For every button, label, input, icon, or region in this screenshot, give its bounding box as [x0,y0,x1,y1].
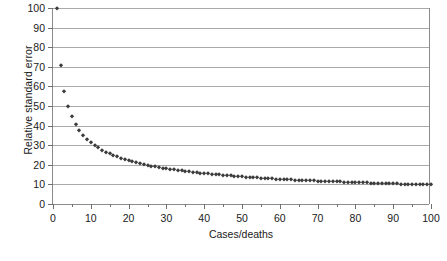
x-tick-label-0: 0 [50,212,56,224]
x-tick-label-20: 20 [123,212,135,224]
x-tick-label-30: 30 [161,212,173,224]
x-minor-tick-85 [374,204,375,207]
y-tick-label-20: 20 [33,159,45,171]
data-point [327,179,331,183]
x-tick-100 [431,204,432,209]
data-point [78,128,82,132]
y-tick-30 [48,145,53,146]
x-tick-70 [318,204,319,209]
x-minor-tick-95 [412,204,413,207]
gridline-y-100 [53,8,429,9]
y-tick-20 [48,165,53,166]
gridline-y-10 [53,184,429,185]
data-point [81,133,85,137]
y-tick-90 [48,28,53,29]
gridline-y-60 [53,86,429,87]
y-tick-60 [48,86,53,87]
x-axis-title: Cases/deaths [52,228,430,240]
x-tick-label-80: 80 [350,212,362,224]
y-tick-50 [48,106,53,107]
y-tick-label-0: 0 [39,198,45,210]
x-minor-tick-45 [223,204,224,207]
data-point [176,168,180,172]
data-point [225,173,229,177]
y-tick-label-60: 60 [33,80,45,92]
plot-area: 0102030405060708090100 01020304050607080… [52,8,430,204]
x-tick-label-90: 90 [387,212,399,224]
gridline-y-30 [53,145,429,146]
gridline-y-90 [53,28,429,29]
data-point [157,165,161,169]
x-tick-80 [355,204,356,209]
y-tick-10 [48,184,53,185]
y-tick-100 [48,8,53,9]
x-tick-label-60: 60 [274,212,286,224]
x-minor-tick-65 [299,204,300,207]
gridline-y-40 [53,126,429,127]
y-tick-label-100: 100 [27,2,45,14]
y-tick-40 [48,126,53,127]
gridline-y-20 [53,165,429,166]
data-point [66,104,70,108]
gridline-y-50 [53,106,429,107]
figure-caption-clipped [0,253,447,261]
x-tick-50 [242,204,243,209]
x-tick-label-70: 70 [312,212,324,224]
y-tick-80 [48,47,53,48]
x-tick-10 [91,204,92,209]
data-point [429,183,433,187]
data-point [331,179,335,183]
x-tick-30 [166,204,167,209]
data-point [55,6,59,10]
gridline-y-70 [53,67,429,68]
data-point [85,137,89,141]
x-minor-tick-15 [110,204,111,207]
y-tick-label-40: 40 [33,120,45,132]
x-minor-tick-75 [337,204,338,207]
y-axis-title: Relative standard error [22,10,34,190]
x-tick-label-50: 50 [236,212,248,224]
x-minor-tick-35 [185,204,186,207]
x-tick-20 [129,204,130,209]
x-minor-tick-55 [261,204,262,207]
y-tick-label-80: 80 [33,41,45,53]
y-tick-label-10: 10 [33,178,45,190]
y-tick-label-70: 70 [33,61,45,73]
data-point [89,140,93,144]
x-minor-tick-25 [148,204,149,207]
x-tick-40 [204,204,205,209]
data-point [70,115,74,119]
x-tick-label-10: 10 [85,212,97,224]
y-tick-label-30: 30 [33,139,45,151]
figure-container: Relative standard error 0102030405060708… [0,0,447,261]
y-tick-label-50: 50 [33,100,45,112]
x-minor-tick-5 [72,204,73,207]
x-tick-90 [393,204,394,209]
x-tick-label-40: 40 [198,212,210,224]
data-point [62,89,66,93]
x-tick-60 [280,204,281,209]
x-tick-label-100: 100 [422,212,440,224]
gridline-y-80 [53,47,429,48]
y-tick-label-90: 90 [33,22,45,34]
y-tick-70 [48,67,53,68]
x-tick-0 [53,204,54,209]
